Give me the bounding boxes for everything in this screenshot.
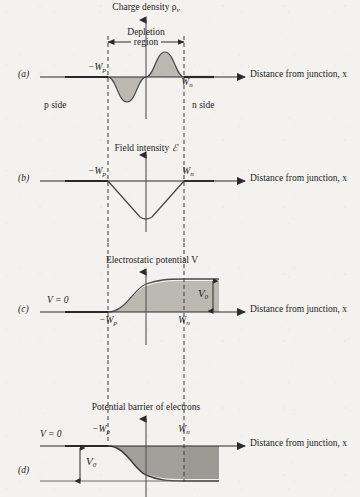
panel-d-graphic bbox=[40, 360, 245, 497]
panel-b-axis-label: Distance from junction, x bbox=[250, 174, 347, 184]
panel-a-letter: (a) bbox=[18, 70, 29, 80]
panel-d-barrier-label: V0 bbox=[86, 456, 96, 469]
panel-d-axis-label: Distance from junction, x bbox=[250, 439, 347, 449]
panel-b-left-edge-label: −Wp bbox=[88, 167, 106, 178]
n-side-label: n side bbox=[192, 101, 214, 111]
script-e-icon: ℰ bbox=[172, 142, 178, 153]
panel-b-curve-label: Field intensity ℰ bbox=[115, 143, 178, 154]
panel-c-right-edge-label: Wn bbox=[178, 316, 189, 327]
panel-a-right-edge-label: Wn bbox=[181, 78, 192, 89]
panel-a-left-edge-label: −Wp bbox=[88, 63, 106, 74]
panel-b-right-edge-label: Wn bbox=[182, 167, 193, 178]
barrier-fill-right bbox=[184, 446, 219, 479]
panel-d-zero-label: V = 0 bbox=[40, 430, 62, 440]
panel-b-letter: (b) bbox=[18, 174, 29, 184]
panel-c-letter: (c) bbox=[18, 305, 29, 315]
p-side-label: p side bbox=[44, 101, 66, 111]
panel-c-curve-label: Electrostatic potential V bbox=[106, 256, 198, 266]
panel-d-letter: (d) bbox=[18, 466, 29, 476]
figure-root: Charge density ρv Depletion region −Wp W… bbox=[0, 0, 360, 497]
charge-density-positive-lobe bbox=[146, 52, 184, 77]
depletion-region-label: Depletion region bbox=[127, 28, 164, 48]
potential-fill bbox=[70, 281, 219, 312]
panel-c-barrier-label: V0 bbox=[198, 288, 208, 301]
panel-b-graphic bbox=[40, 119, 245, 243]
panel-a-axis-label: Distance from junction, x bbox=[250, 70, 347, 80]
panel-c-zero-label: V = 0 bbox=[47, 296, 69, 306]
charge-density-negative-lobe bbox=[108, 77, 146, 102]
panel-d-left-edge-label: −Wp bbox=[92, 425, 110, 436]
panel-c-left-edge-label: −Wp bbox=[99, 316, 117, 327]
panel-d-curve-label: Potential barrier of electrons bbox=[92, 403, 200, 413]
panel-c-axis-label: Distance from junction, x bbox=[250, 305, 347, 315]
panel-a-curve-label: Charge density ρv bbox=[112, 3, 179, 14]
panel-d-right-edge-label: Wn bbox=[178, 425, 189, 436]
